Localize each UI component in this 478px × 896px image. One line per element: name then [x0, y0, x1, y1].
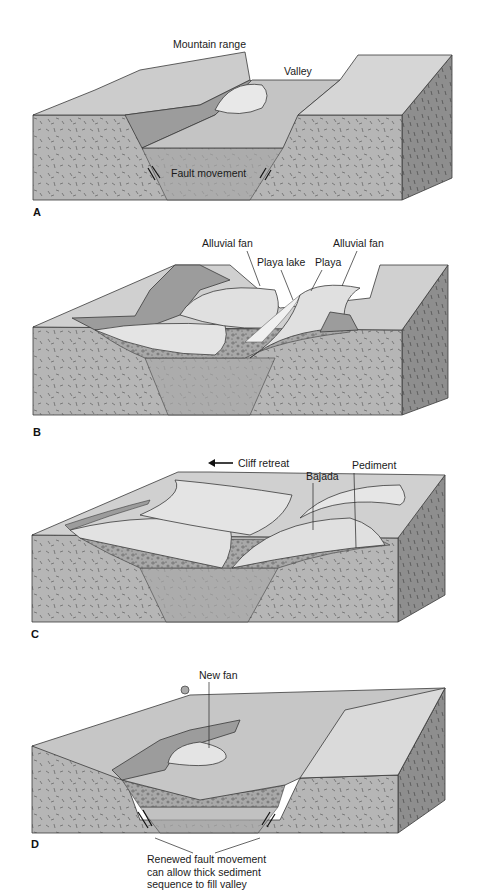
note-line-1: Renewed fault movement [147, 853, 266, 866]
panel-letter-a: A [33, 206, 41, 218]
label-alluvial-fan-right: Alluvial fan [333, 238, 384, 249]
label-renewed-fault-movement: Renewed fault movement can allow thick s… [147, 853, 266, 891]
panel-b: Alluvial fan Playa lake Playa Alluvial f… [0, 220, 478, 440]
panel-letter-c: C [31, 628, 39, 640]
label-playa: Playa [315, 257, 341, 268]
panel-c: Cliff retreat Bajada Pediment C [0, 440, 478, 660]
label-bajada: Bajada [306, 471, 339, 482]
panel-a: Mountain range Valley Fault movement A [0, 0, 478, 220]
note-line-3: sequence to fill valley [147, 878, 266, 891]
label-new-fan: New fan [199, 670, 238, 681]
block-diagram-a [0, 0, 478, 220]
label-pediment: Pediment [352, 460, 396, 471]
label-alluvial-fan-left: Alluvial fan [202, 238, 253, 249]
label-mountain-range: Mountain range [173, 39, 246, 50]
block-diagram-b [0, 220, 478, 440]
panel-letter-b: B [33, 426, 41, 438]
label-playa-lake: Playa lake [257, 257, 305, 268]
panel-d: New fan D Renewed fault movement can all… [0, 660, 478, 896]
block-diagram-c [0, 440, 478, 660]
label-valley: Valley [284, 66, 312, 77]
note-line-2: can allow thick sediment [147, 866, 266, 879]
label-cliff-retreat: Cliff retreat [238, 458, 289, 469]
label-fault-movement: Fault movement [171, 168, 246, 179]
panel-letter-d: D [31, 838, 39, 850]
